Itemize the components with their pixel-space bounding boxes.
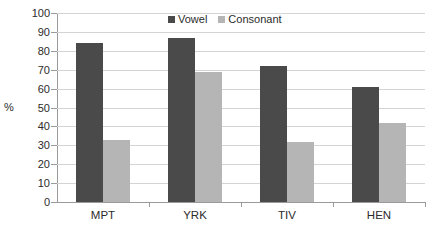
y-tick-label: 60 xyxy=(0,83,50,95)
y-tick-mark xyxy=(51,202,57,203)
legend-label-consonant: Consonant xyxy=(228,13,281,25)
bar-consonant-hen xyxy=(379,123,406,202)
bar-consonant-tiv xyxy=(287,142,314,202)
y-tick-label: 40 xyxy=(0,120,50,132)
bar-vowel-yrk xyxy=(168,38,195,202)
bar-group xyxy=(333,13,425,202)
y-tick-label: 80 xyxy=(0,45,50,57)
chart-legend: VowelConsonant xyxy=(168,13,282,25)
y-tick-label: 20 xyxy=(0,158,50,170)
legend-item-consonant: Consonant xyxy=(218,13,281,25)
y-tick-mark xyxy=(51,13,57,14)
bar-vowel-mpt xyxy=(76,43,103,202)
bar-vowel-tiv xyxy=(260,66,287,202)
y-tick-label: 30 xyxy=(0,139,50,151)
x-axis-separator-tick xyxy=(149,202,150,207)
bar-group xyxy=(241,13,333,202)
bar-consonant-yrk xyxy=(195,72,222,202)
y-tick-label: 0 xyxy=(0,196,50,208)
bar-group xyxy=(149,13,241,202)
x-axis-separator-tick xyxy=(425,202,426,207)
y-tick-mark xyxy=(51,89,57,90)
x-tick-label-yrk: YRK xyxy=(149,208,241,222)
y-tick-label: 70 xyxy=(0,64,50,76)
y-tick-mark xyxy=(51,32,57,33)
legend-swatch-consonant xyxy=(218,16,225,23)
y-tick-mark xyxy=(51,145,57,146)
legend-label-vowel: Vowel xyxy=(178,13,207,25)
bar-chart: % 1009080706050403020100 VowelConsonant … xyxy=(0,0,437,231)
y-tick-label: 90 xyxy=(0,26,50,38)
y-tick-mark xyxy=(51,164,57,165)
x-axis-separator-tick xyxy=(333,202,334,207)
x-tick-label-mpt: MPT xyxy=(57,208,149,222)
legend-item-vowel: Vowel xyxy=(168,13,207,25)
y-tick-label: 100 xyxy=(0,7,50,19)
x-tick-label-hen: HEN xyxy=(333,208,425,222)
y-tick-label: 50 xyxy=(0,102,50,114)
x-tick-label-tiv: TIV xyxy=(241,208,333,222)
y-tick-mark xyxy=(51,51,57,52)
plot-area xyxy=(57,13,425,202)
legend-swatch-vowel xyxy=(168,16,175,23)
y-tick-label: 10 xyxy=(0,177,50,189)
bar-consonant-mpt xyxy=(103,140,130,202)
x-axis-separator-tick xyxy=(241,202,242,207)
bar-group xyxy=(57,13,149,202)
y-tick-mark xyxy=(51,70,57,71)
y-tick-mark xyxy=(51,126,57,127)
y-axis-tick-labels: 1009080706050403020100 xyxy=(0,0,50,231)
y-tick-mark xyxy=(51,183,57,184)
y-tick-mark xyxy=(51,108,57,109)
bar-vowel-hen xyxy=(352,87,379,202)
